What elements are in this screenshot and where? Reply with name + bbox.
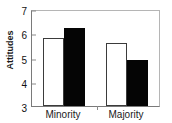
- bar-chart: Attitudes 34567 MinorityMajority: [0, 0, 172, 123]
- y-axis-title: Attitudes: [5, 19, 15, 81]
- y-tick-label: 5: [21, 54, 32, 65]
- bar-majority-filled: [127, 60, 148, 106]
- y-tick-mark: [32, 35, 36, 36]
- y-tick-mark: [32, 11, 36, 12]
- y-tick-label: 4: [21, 78, 32, 89]
- y-tick-label: 7: [21, 6, 32, 17]
- y-tick-mark: [32, 59, 36, 60]
- bar-minority-open: [43, 38, 64, 106]
- y-tick-label: 3: [21, 103, 32, 114]
- y-tick-label: 6: [21, 30, 32, 41]
- x-label-minority: Minority: [45, 109, 80, 120]
- bar-minority-filled: [64, 28, 85, 106]
- plot-area: 34567: [31, 10, 160, 107]
- bar-majority-open: [106, 43, 127, 106]
- x-axis-center-tick: [97, 106, 98, 110]
- x-label-majority: Majority: [108, 109, 143, 120]
- y-tick-mark: [32, 83, 36, 84]
